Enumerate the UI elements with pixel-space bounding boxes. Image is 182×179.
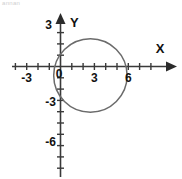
x-tick-label-6: 6	[125, 71, 132, 85]
y-tick-label-neg3: -3	[45, 95, 56, 109]
y-axis-label: Y	[70, 15, 79, 30]
x-axis-label: X	[156, 41, 165, 56]
axes-group	[12, 13, 177, 177]
y-tick-label-3: 3	[45, 18, 52, 32]
graph-svg: X Y -3 0 3 6 3 -3 -6	[0, 0, 182, 179]
x-axis-arrow-icon	[166, 62, 177, 72]
y-axis-arrow-icon	[56, 13, 66, 24]
y-tick-label-neg6: -6	[45, 135, 56, 149]
x-tick-label-3: 3	[91, 71, 98, 85]
x-tick-label-neg3: -3	[21, 71, 32, 85]
x-tick-label-origin: 0	[56, 67, 63, 81]
coordinate-plane-figure: X Y -3 0 3 6 3 -3 -6	[0, 0, 182, 179]
